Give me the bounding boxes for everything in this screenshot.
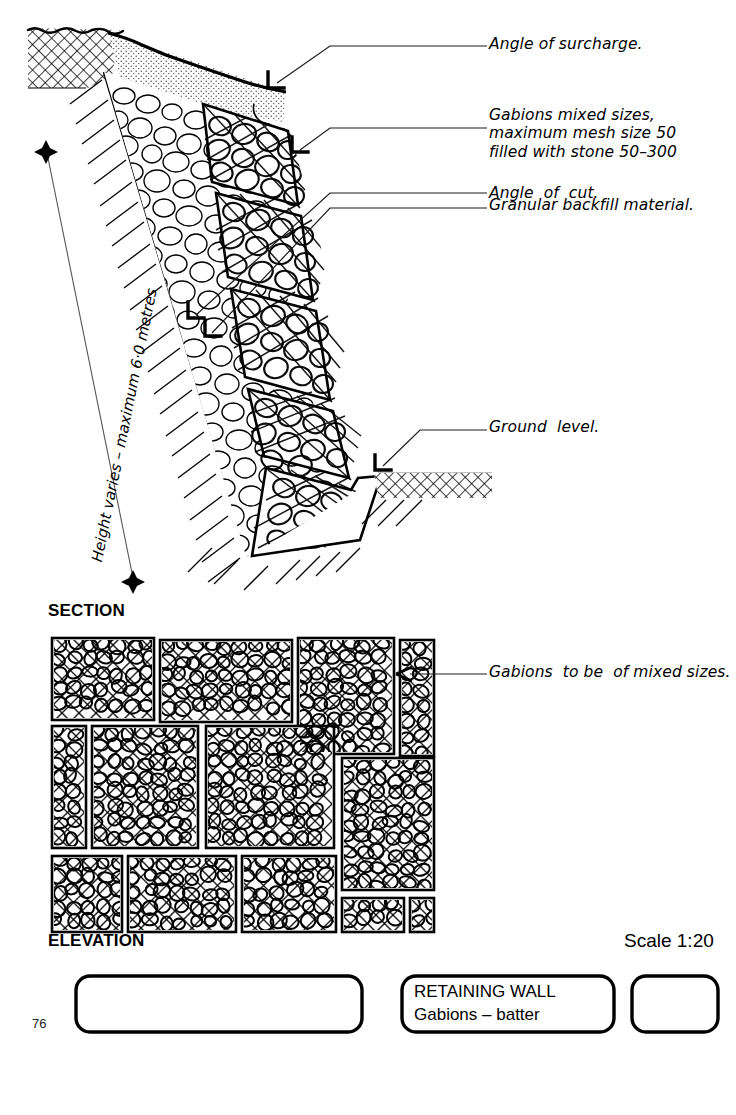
title-box-right[interactable] (632, 976, 718, 1032)
page-number: 76 (32, 1016, 46, 1031)
view-label-section: SECTION (48, 601, 125, 621)
annotation-angle-of-surcharge: Angle of surcharge. (489, 35, 643, 53)
annotation-granular-backfill: Granular backfill material. (489, 196, 694, 214)
title-block-main-title: RETAINING WALL (414, 981, 556, 1004)
annotation-gabions-mixed-sizes-elevation: Gabions to be of mixed sizes. (489, 663, 731, 681)
annotation-gabions-mixed-sizes: Gabions mixed sizes, maximum mesh size 5… (489, 106, 677, 161)
view-label-elevation: ELEVATION (48, 931, 145, 951)
title-box-left[interactable] (76, 976, 362, 1032)
annotation-ground-level: Ground level. (489, 418, 599, 436)
title-block-subtitle: Gabions – batter (414, 1004, 540, 1027)
scale-label: Scale 1:20 (624, 930, 714, 952)
